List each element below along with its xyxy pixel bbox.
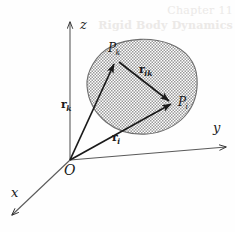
point-label-Pi: Pi [178,96,188,108]
point-label-Pk-base: P [108,41,116,55]
x-axis-label: x [11,186,18,199]
vector-label-rk: rk [61,99,72,110]
vector-label-rik-sub: ik [144,69,152,78]
vector-label-ri-sub: i [117,137,120,146]
vector-diagram [0,0,235,232]
x-axis [12,160,70,215]
point-label-Pi-base: P [178,95,186,109]
y-axis [70,147,226,160]
y-axis-label: y [213,121,220,134]
vector-label-rik: rik [139,64,153,75]
point-label-Pk-sub: k [116,48,121,57]
vector-label-rk-sub: k [66,104,71,113]
origin-label: O [64,163,75,177]
point-label-Pi-sub: i [186,102,188,111]
vector-label-ri: ri [112,132,121,143]
figure-container: Chapter 11 Rigid Body Dynamics [0,0,235,232]
point-label-Pk: Pk [108,42,121,54]
z-axis-label: z [80,18,87,31]
